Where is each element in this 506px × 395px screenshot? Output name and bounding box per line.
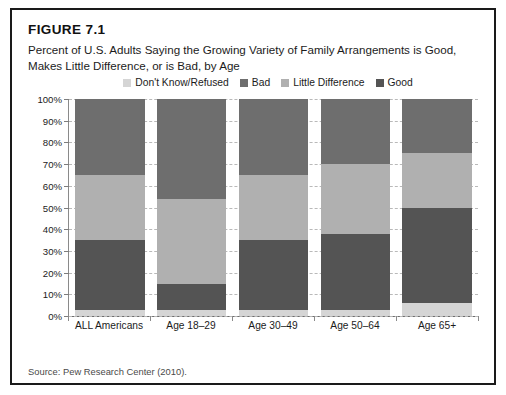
stacked-bar[interactable]: [402, 99, 472, 316]
y-axis-tick-label: 30%: [43, 245, 62, 256]
stacked-bar[interactable]: [321, 99, 391, 316]
y-axis-tick-label: 50%: [43, 202, 62, 213]
bar-column: [75, 99, 145, 316]
legend-label: Good: [388, 77, 413, 88]
legend-label: Don't Know/Refused: [135, 77, 229, 88]
figure-page: FIGURE 7.1 Percent of U.S. Adults Saying…: [0, 0, 506, 395]
chart-legend: Don't Know/RefusedBadLittle DifferenceGo…: [26, 77, 480, 88]
bar-column: [402, 99, 472, 316]
plot-area: [68, 99, 478, 317]
legend-item: Little Difference: [281, 77, 364, 88]
stacked-bar[interactable]: [157, 99, 227, 316]
bar-segment: [239, 240, 309, 309]
bar-segment: [402, 208, 472, 303]
y-axis-tick-label: 20%: [43, 267, 62, 278]
stacked-bar[interactable]: [239, 99, 309, 316]
bar-segment: [402, 153, 472, 207]
bar-segment: [157, 284, 227, 310]
y-axis-tick-label: 100%: [37, 94, 62, 105]
bar-segment: [157, 199, 227, 284]
bar-segment: [321, 310, 391, 317]
x-axis-tick: [478, 316, 479, 321]
bar-segment: [75, 240, 145, 309]
bar-group: [69, 99, 478, 316]
y-axis: 0%10%20%30%40%50%60%70%80%90%100%: [26, 91, 68, 337]
bar-segment: [157, 99, 227, 199]
figure-box: FIGURE 7.1 Percent of U.S. Adults Saying…: [10, 8, 496, 385]
x-axis-label: Age 65+: [402, 320, 472, 331]
bar-segment: [75, 99, 145, 175]
bar-segment: [157, 310, 227, 317]
source-note: Source: Pew Research Center (2010).: [28, 366, 187, 377]
stacked-bar[interactable]: [75, 99, 145, 316]
bar-segment: [239, 310, 309, 317]
legend-label: Bad: [252, 77, 270, 88]
legend-swatch-icon: [376, 79, 384, 87]
legend-item: Good: [376, 77, 413, 88]
bar-segment: [239, 175, 309, 240]
bar-segment: [321, 234, 391, 310]
y-axis-tick-label: 0%: [48, 311, 62, 322]
bar-column: [239, 99, 309, 316]
bar-segment: [402, 99, 472, 153]
y-axis-tick-label: 80%: [43, 137, 62, 148]
bar-segment: [75, 310, 145, 317]
legend-label: Little Difference: [293, 77, 364, 88]
bar-segment: [239, 99, 309, 175]
legend-item: Bad: [240, 77, 270, 88]
bar-column: [157, 99, 227, 316]
legend-swatch-icon: [281, 79, 289, 87]
bar-segment: [321, 164, 391, 233]
bar-segment: [402, 303, 472, 316]
x-axis-label: Age 30–49: [238, 320, 308, 331]
x-axis-label: Age 18–29: [156, 320, 226, 331]
bar-segment: [321, 99, 391, 164]
y-axis-tick-label: 10%: [43, 289, 62, 300]
y-axis-tick-label: 60%: [43, 180, 62, 191]
legend-swatch-icon: [123, 79, 131, 87]
legend-swatch-icon: [240, 79, 248, 87]
x-axis-label: Age 50–64: [320, 320, 390, 331]
bar-segment: [75, 175, 145, 240]
plot-wrapper: 0%10%20%30%40%50%60%70%80%90%100% ALL Am…: [26, 91, 480, 337]
y-axis-tick-label: 40%: [43, 224, 62, 235]
y-axis-tick-label: 90%: [43, 115, 62, 126]
legend-item: Don't Know/Refused: [123, 77, 229, 88]
figure-title: Percent of U.S. Adults Saying the Growin…: [28, 42, 480, 73]
figure-label: FIGURE 7.1: [28, 22, 480, 37]
x-axis-label: ALL Americans: [74, 320, 144, 331]
bar-column: [321, 99, 391, 316]
y-axis-tick-label: 70%: [43, 159, 62, 170]
x-axis-labels: ALL AmericansAge 18–29Age 30–49Age 50–64…: [68, 320, 478, 331]
